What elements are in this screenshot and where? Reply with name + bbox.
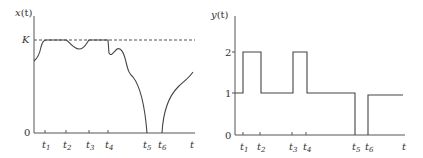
left-tick-t1: t1 bbox=[42, 139, 51, 152]
left-tick-t4: t4 bbox=[105, 139, 114, 152]
right-labels: y(t) 2 1 0 t1 t2 t3 t4 t5 t6 t bbox=[210, 9, 407, 154]
left-labels: x(t) K 0 t1 t2 t3 t4 t5 t6 t bbox=[15, 7, 195, 152]
left-t-label: t bbox=[190, 139, 195, 150]
right-tick-t3: t3 bbox=[289, 141, 298, 154]
k-label: K bbox=[21, 34, 30, 45]
left-tick-t5: t5 bbox=[143, 139, 152, 152]
diagram-canvas: x(t) K 0 t1 t2 t3 t4 t5 t6 t y(t) 2 1 0 … bbox=[0, 0, 423, 158]
right-plot bbox=[232, 16, 405, 135]
left-tick-t2: t2 bbox=[63, 139, 72, 152]
right-zero-label: 0 bbox=[225, 130, 231, 141]
right-tick-t4: t4 bbox=[303, 141, 312, 154]
right-t-label: t bbox=[402, 141, 407, 152]
x-curve bbox=[34, 40, 193, 133]
right-ylabel: y(t) bbox=[210, 9, 229, 20]
right-tick-t6: t6 bbox=[365, 141, 374, 154]
right-tick-t2: t2 bbox=[257, 141, 266, 154]
level-1-label: 1 bbox=[225, 88, 231, 99]
right-tick-t1: t1 bbox=[240, 141, 249, 154]
left-plot bbox=[34, 16, 195, 133]
left-ylabel: x(t) bbox=[15, 7, 33, 18]
left-tick-t6: t6 bbox=[158, 139, 167, 152]
left-tick-t3: t3 bbox=[86, 139, 95, 152]
y-step-curve bbox=[235, 52, 403, 135]
level-2-label: 2 bbox=[225, 47, 231, 58]
left-zero-label: 0 bbox=[24, 127, 30, 138]
right-tick-t5: t5 bbox=[352, 141, 361, 154]
